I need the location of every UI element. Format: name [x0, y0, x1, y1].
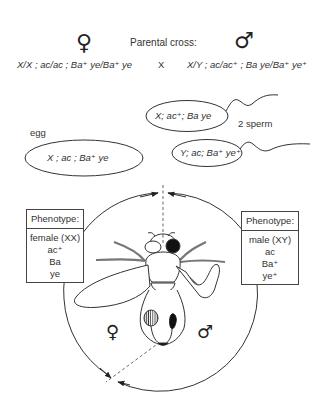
- female-parent-symbol: ♀: [76, 32, 92, 54]
- female-phenotype-ye: ye: [29, 268, 81, 280]
- female-phenotype-sex: female (XX): [29, 232, 81, 244]
- male-side-symbol: ♂: [197, 323, 213, 341]
- parental-cross-title: Parental cross:: [130, 38, 197, 48]
- female-phenotype-box: Phenotype: female (XX) ac⁺ Ba ye: [26, 209, 84, 283]
- male-parent-genotype: X/Y ; ac/ac⁺ ; Ba ye/Ba⁺ ye⁺: [187, 60, 307, 70]
- egg-genotype: X ; ac ; Ba⁺ ye: [47, 153, 109, 163]
- sperm-label: 2 sperm: [238, 119, 272, 129]
- cross-symbol: X: [158, 60, 164, 70]
- female-phenotype-header: Phenotype:: [27, 210, 83, 229]
- sperm-x-genotype: X; ac⁺; Ba ye: [155, 111, 211, 121]
- egg-label: egg: [30, 128, 46, 138]
- gynandromorph-diagram: ♀ Parental cross: ♂ X/X ; ac/ac ; Ba⁺ ye…: [0, 0, 326, 411]
- female-phenotype-ba: Ba: [29, 256, 81, 268]
- male-phenotype-header: Phenotype:: [242, 212, 298, 231]
- female-parent-genotype: X/X ; ac/ac ; Ba⁺ ye/Ba⁺ ye: [17, 60, 132, 70]
- female-phenotype-ac: ac⁺: [29, 244, 81, 256]
- male-phenotype-ba: Ba⁺: [244, 258, 296, 270]
- male-parent-symbol: ♂: [234, 30, 254, 52]
- male-phenotype-ac: ac: [244, 246, 296, 258]
- sperm-y-genotype: Y; ac; Ba⁺ ye⁺: [180, 148, 241, 158]
- male-phenotype-ye: ye⁺: [244, 270, 296, 282]
- male-phenotype-sex: male (XY): [244, 234, 296, 246]
- female-side-symbol: ♀: [106, 323, 119, 341]
- male-phenotype-box: Phenotype: male (XY) ac Ba⁺ ye⁺: [241, 211, 299, 285]
